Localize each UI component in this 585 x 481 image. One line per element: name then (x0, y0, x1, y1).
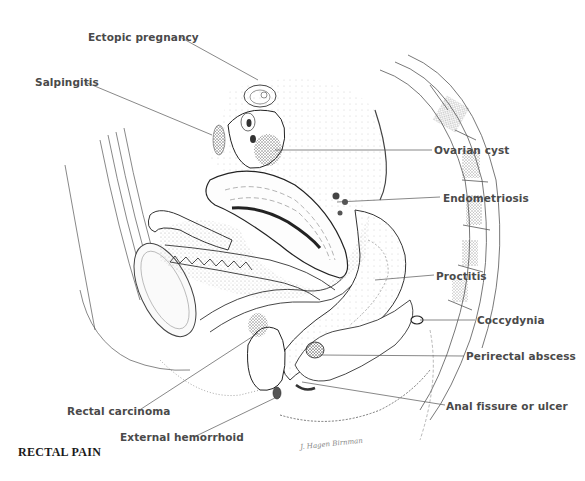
figure-title: RECTAL PAIN (18, 445, 101, 460)
label-rectal-carcinoma: Rectal carcinoma (67, 405, 170, 417)
label-endometriosis: Endometriosis (443, 192, 529, 204)
label-external-hemorrhoid: External hemorrhoid (120, 431, 244, 443)
label-perirectal-abscess: Perirectal abscess (466, 350, 576, 362)
label-coccydynia: Coccydynia (477, 314, 545, 326)
label-anal-fissure: Anal fissure or ulcer (446, 400, 568, 412)
label-ovarian-cyst: Ovarian cyst (434, 144, 509, 156)
medical-illustration: Ectopic pregnancy Salpingitis Ovarian cy… (0, 0, 585, 481)
label-salpingitis: Salpingitis (35, 76, 99, 88)
label-ectopic-pregnancy: Ectopic pregnancy (88, 31, 199, 43)
label-proctitis: Proctitis (436, 270, 487, 282)
